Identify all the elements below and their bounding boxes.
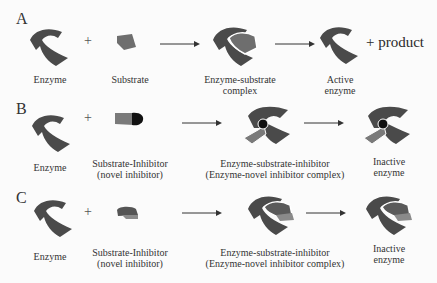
inactive-label-line1: Inactive — [364, 243, 414, 254]
complex-label-line1: Enzyme-substrate — [195, 74, 285, 85]
enzyme-label: Enzyme — [20, 74, 80, 85]
plus-sign: + — [84, 33, 92, 49]
enzyme-shape — [30, 112, 72, 152]
complex-label-line1: Enzyme-substrate-inhibitor — [195, 158, 355, 169]
arrow-icon — [182, 210, 222, 216]
substrate-inhibitor-label-line2: (novel inhibitor) — [80, 258, 180, 269]
substrate-inhibitor-shape — [114, 112, 144, 126]
complex-label-line2: (Enzyme-novel inhibitor complex) — [195, 169, 355, 180]
active-label-line2: enzyme — [315, 85, 365, 96]
substrate-label: Substrate — [100, 74, 160, 85]
plus-sign: + — [84, 204, 92, 220]
substrate-inhibitor-label-line1: Substrate-Inhibitor — [80, 247, 180, 258]
inactive-label-line2: enzyme — [364, 167, 414, 178]
active-enzyme-shape — [318, 24, 360, 64]
inactive-label-line2: enzyme — [364, 254, 414, 265]
inactive-enzyme-shape — [364, 193, 412, 235]
substrate-inhibitor-shape — [116, 206, 140, 220]
arrow-icon — [182, 120, 222, 126]
substrate-shape — [116, 33, 138, 51]
enzyme-label: Enzyme — [20, 162, 80, 173]
substrate-inhibitor-label-line1: Substrate-Inhibitor — [80, 158, 180, 169]
enzyme-substrate-inhibitor-complex-shape — [244, 104, 292, 146]
inactive-label-line1: Inactive — [364, 156, 414, 167]
arrow-icon — [304, 120, 344, 126]
inactive-enzyme-shape — [364, 104, 412, 146]
arrow-icon — [275, 41, 315, 47]
panel-b-label: B — [16, 100, 27, 118]
panel-a-label: A — [16, 10, 28, 28]
product-label: + product — [366, 34, 424, 51]
enzyme-substrate-inhibitor-complex-shape — [246, 193, 294, 235]
substrate-inhibitor-label-line2: (novel inhibitor) — [80, 169, 180, 180]
plus-sign: + — [84, 110, 92, 126]
enzyme-label: Enzyme — [20, 251, 80, 262]
complex-label-line1: Enzyme-substrate-inhibitor — [195, 247, 355, 258]
panel-c-label: C — [16, 189, 27, 207]
complex-label-line2: (Enzyme-novel inhibitor complex) — [195, 258, 355, 269]
enzyme-substrate-complex-shape — [211, 24, 259, 66]
enzyme-shape — [28, 26, 70, 66]
arrow-icon — [306, 210, 346, 216]
complex-label-line2: complex — [195, 85, 285, 96]
active-label-line1: Active — [315, 74, 365, 85]
enzyme-shape — [32, 197, 74, 237]
arrow-icon — [160, 41, 200, 47]
